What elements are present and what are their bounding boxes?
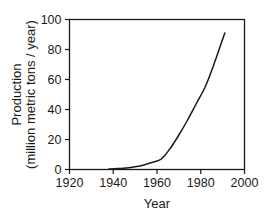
chart-background (0, 0, 268, 223)
x-tick-label: 1960 (143, 176, 171, 190)
y-axis-label-line2: (million metric tons / year) (23, 20, 38, 169)
y-tick-label: 20 (48, 133, 62, 147)
production-vs-year-line-chart: 19201940196019802000 020406080100 Year P… (0, 0, 268, 223)
x-tick-label: 1940 (99, 176, 127, 190)
x-tick-label: 1980 (187, 176, 215, 190)
y-tick-label: 60 (48, 73, 62, 87)
x-tick-label: 1920 (56, 176, 84, 190)
x-tick-label: 2000 (231, 176, 259, 190)
y-tick-label: 0 (55, 163, 62, 177)
y-tick-label: 100 (41, 13, 62, 27)
y-axis-label-line1: Production (9, 63, 24, 125)
chart-figure: 19201940196019802000 020406080100 Year P… (0, 0, 268, 223)
y-tick-label: 80 (48, 43, 62, 57)
y-tick-label: 40 (48, 103, 62, 117)
x-axis-label: Year (144, 196, 171, 211)
